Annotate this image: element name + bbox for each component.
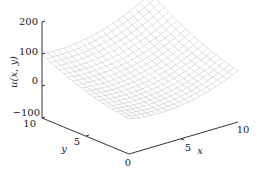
y-axis-label: y <box>60 143 67 154</box>
x-axis: 0 5 10 x <box>125 122 250 168</box>
y-tick-5: 5 <box>74 136 80 147</box>
y-tick-10: 10 <box>23 118 36 129</box>
x-tick-10: 10 <box>237 124 250 135</box>
mesh-line <box>124 16 211 90</box>
z-tick-100: 100 <box>19 46 38 57</box>
z-axis: 200 100 0 −100 u(x, y) <box>8 16 45 118</box>
mesh-line <box>135 7 222 83</box>
z-tick-0: 0 <box>32 75 38 86</box>
z-tick-minus-100: −100 <box>13 107 40 118</box>
mesh-line <box>151 0 238 71</box>
y-axis: 10 5 y <box>23 118 129 154</box>
z-tick-200: 200 <box>19 16 38 27</box>
x-tick-5: 5 <box>185 142 191 153</box>
mesh-line <box>140 3 227 79</box>
surface-plot: 200 100 0 −100 u(x, y) 10 5 y 0 5 10 x <box>0 0 257 175</box>
mesh-line <box>99 48 208 101</box>
x-tick-0: 0 <box>125 157 131 168</box>
mesh-line <box>118 20 205 94</box>
surface-mesh <box>42 0 238 119</box>
z-axis-label: u(x, y) <box>8 56 19 88</box>
mesh-line <box>146 0 233 75</box>
mesh-line <box>64 16 173 74</box>
mesh-line <box>90 41 199 95</box>
x-axis-label: x <box>197 145 203 156</box>
mesh-line <box>107 27 194 100</box>
